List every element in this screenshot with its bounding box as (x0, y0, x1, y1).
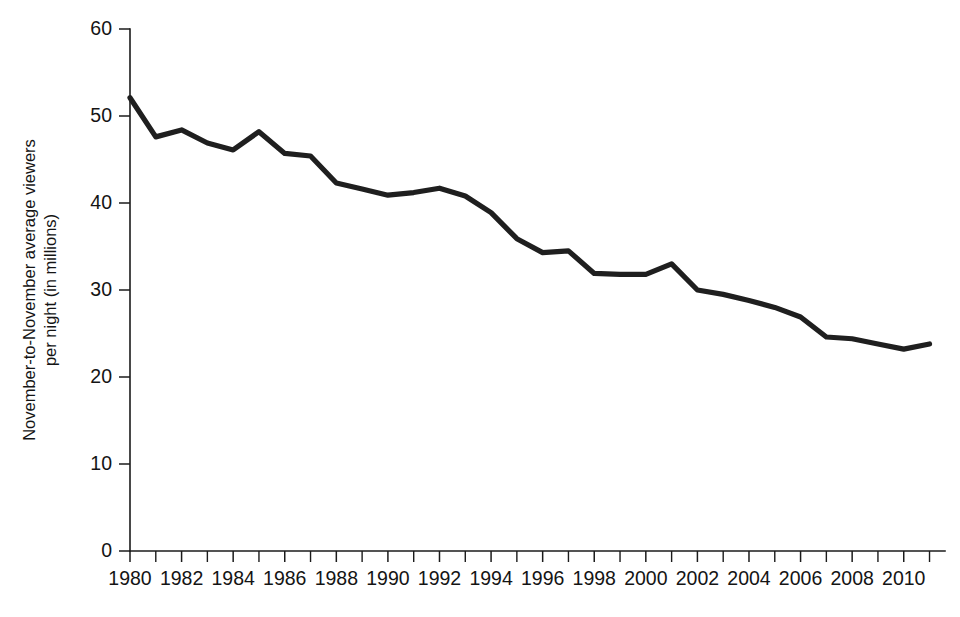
x-tick-label: 1988 (315, 567, 358, 589)
x-tick-label: 1990 (366, 567, 410, 589)
y-axis-title-line: November-to-November average viewers (20, 139, 38, 441)
y-axis: 0102030405060 (90, 17, 130, 561)
x-tick-label: 2000 (624, 567, 668, 589)
x-tick-label: 1986 (263, 567, 306, 589)
x-tick-label: 1994 (469, 567, 513, 589)
x-tick-label: 1998 (573, 567, 616, 589)
y-tick-label: 50 (90, 104, 112, 126)
y-tick-label: 10 (90, 452, 112, 474)
x-tick-label: 1980 (108, 567, 152, 589)
x-tick-label: 2004 (727, 567, 771, 589)
y-tick-label: 60 (90, 17, 112, 39)
x-axis: 1980198219841986198819901992199419961998… (108, 551, 945, 589)
x-tick-label: 2010 (882, 567, 926, 589)
x-tick-label: 1992 (418, 567, 461, 589)
chart-container: November-to-November average viewersper … (0, 0, 960, 617)
y-tick-label: 20 (90, 365, 112, 387)
y-tick-label: 40 (90, 191, 112, 213)
x-tick-label: 2006 (779, 567, 822, 589)
y-tick-label: 0 (101, 539, 112, 561)
x-tick-label: 2008 (830, 567, 873, 589)
x-tick-label: 2002 (676, 567, 719, 589)
x-tick-label: 1982 (160, 567, 203, 589)
line-chart: November-to-November average viewersper … (0, 0, 960, 617)
data-line-series-0 (130, 98, 930, 349)
y-axis-title-line: per night (in millions) (41, 214, 59, 366)
x-tick-label: 1984 (211, 567, 255, 589)
data-series-group (130, 98, 930, 349)
x-tick-label: 1996 (521, 567, 564, 589)
y-tick-label: 30 (90, 278, 112, 300)
y-axis-title: November-to-November average viewersper … (20, 139, 59, 441)
